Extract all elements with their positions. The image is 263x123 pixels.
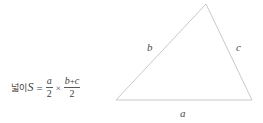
triangle-diagram	[0, 0, 263, 123]
figure-canvas: 넓이 S = a 2 × b+c 2 b c a	[0, 0, 263, 123]
triangle-shape	[0, 0, 263, 123]
formula-multiplication-sign: ×	[53, 83, 64, 93]
triangle-outline	[116, 4, 252, 100]
fraction-b-plus-c-over-2: b+c 2	[64, 76, 81, 99]
formula-variable-s: S	[26, 80, 33, 95]
triangle-side-label-a: a	[180, 108, 186, 119]
formula-korean-label: 넓이	[11, 84, 26, 93]
triangle-side-label-c: c	[236, 42, 241, 53]
fraction-denominator-2: 2	[46, 88, 53, 99]
fraction-denominator-2: 2	[68, 88, 75, 99]
area-formula: 넓이 S = a 2 × b+c 2	[11, 76, 80, 99]
fraction-a-over-2: a 2	[46, 76, 53, 99]
fraction-numerator-b-plus-c: b+c	[64, 76, 81, 87]
fraction-numerator-a: a	[46, 76, 53, 87]
formula-equals-sign: =	[33, 82, 45, 94]
numerator-term-c: c	[75, 75, 79, 86]
triangle-side-label-b: b	[147, 42, 153, 53]
